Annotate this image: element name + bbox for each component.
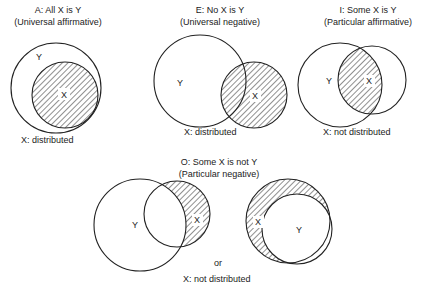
label-x: X xyxy=(61,90,67,100)
label-x: X xyxy=(194,215,200,225)
diagram-o-left: Y X xyxy=(94,179,210,271)
diagram-i-subtitle: (Particular affirmative) xyxy=(324,17,412,27)
diagram-i-caption: X: not distributed xyxy=(323,127,391,137)
label-y: Y xyxy=(177,78,183,88)
diagram-e: E: No X is Y (Universal negative) Y X X:… xyxy=(154,5,287,137)
diagram-i-title: I: Some X is Y xyxy=(340,5,397,15)
label-x: X xyxy=(366,76,372,86)
diagram-e-subtitle: (Universal negative) xyxy=(180,17,260,27)
diagram-o-right: X Y xyxy=(246,179,332,264)
diagram-e-caption: X: distributed xyxy=(184,127,237,137)
label-y: Y xyxy=(296,225,302,235)
diagram-a-title: A: All X is Y xyxy=(35,5,81,15)
label-y: Y xyxy=(132,220,138,230)
connector-or: or xyxy=(214,258,222,268)
diagram-a: A: All X is Y (Universal affirmative) Y … xyxy=(11,5,102,145)
label-y: Y xyxy=(326,76,332,86)
diagram-o-subtitle: (Particular negative) xyxy=(179,169,260,179)
diagram-o-caption: X: not distributed xyxy=(183,274,251,284)
diagram-a-caption: X: distributed xyxy=(21,135,74,145)
label-x: X xyxy=(255,217,261,227)
diagram-a-subtitle: (Universal affirmative) xyxy=(14,17,101,27)
diagram-o: O: Some X is not Y (Particular negative)… xyxy=(94,157,332,284)
diagram-e-title: E: No X is Y xyxy=(196,5,244,15)
venn-diagrams-figure: A: All X is Y (Universal affirmative) Y … xyxy=(0,0,425,290)
diagram-o-title: O: Some X is not Y xyxy=(181,157,257,167)
diagram-i: I: Some X is Y (Particular affirmative) … xyxy=(298,5,412,137)
label-x: X xyxy=(252,91,258,101)
label-y: Y xyxy=(36,52,42,62)
